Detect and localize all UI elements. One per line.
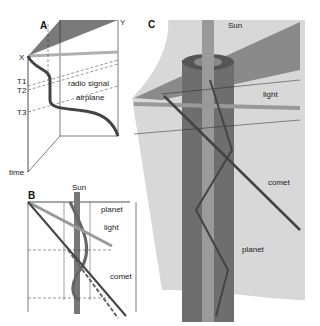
axis-y-label: Y — [120, 18, 126, 27]
sun-worldline-c — [202, 20, 214, 322]
planet-label-b: planet — [101, 205, 124, 214]
axis-x-label: X — [19, 53, 25, 62]
light-worldline-b — [28, 202, 112, 246]
radio-signal-label: radio signal — [68, 79, 109, 88]
panel-c: C Sun light comet planet — [132, 19, 305, 322]
comet-label-b: comet — [110, 272, 133, 281]
airplane-worldline — [28, 56, 118, 136]
panel-a: A X Y T1 T2 T3 time radio signal airplan… — [9, 18, 126, 177]
t3-label: T3 — [17, 108, 27, 117]
light-label-b: light — [104, 223, 119, 232]
airplane-label: airplane — [76, 93, 105, 102]
t1-label: T1 — [17, 77, 27, 86]
sun-label-b: Sun — [72, 183, 86, 192]
planet-label-c: planet — [242, 245, 265, 254]
t2-label: T2 — [17, 86, 27, 95]
comet-label-c: comet — [268, 178, 291, 187]
light-label-c: light — [263, 90, 278, 99]
radio-signal-worldline — [28, 52, 118, 56]
panel-c-label: C — [148, 19, 155, 30]
panel-b-label: B — [28, 190, 35, 201]
panel-a-label: A — [40, 20, 47, 31]
panel-b: B Sun planet light comet — [28, 183, 136, 318]
time-axis-label: time — [9, 168, 25, 177]
spacetime-diagram: A X Y T1 T2 T3 time radio signal airplan… — [0, 0, 320, 326]
sun-label-c: Sun — [228, 21, 242, 30]
